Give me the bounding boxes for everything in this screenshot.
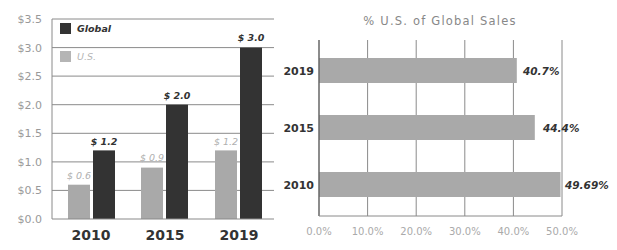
y-category: 2010	[283, 179, 314, 192]
x-tick: 40.0%	[498, 226, 530, 237]
bar-global-2015	[166, 105, 188, 219]
x-tick: 30.0%	[449, 226, 481, 237]
value-label-global-2019: $ 3.0	[238, 32, 265, 43]
x-tick: 50.0%	[546, 226, 578, 237]
x-category-labels: 2010 2015 2019	[72, 227, 259, 243]
legend-swatch-us	[60, 51, 71, 62]
y-tick-labels: $0.0 $0.5 $1.0 $1.5 $2.0 $2.5 $3.0 $3.5	[18, 13, 43, 226]
charts-canvas: $0.0 $0.5 $1.0 $1.5 $2.0 $2.5 $3.0 $3.5 …	[0, 0, 617, 250]
y-tick: $3.5	[18, 13, 43, 26]
x-category: 2010	[72, 227, 111, 243]
y-tick: $3.0	[18, 42, 43, 55]
x-tick: 20.0%	[400, 226, 432, 237]
value-label-us-2015: $ 0.9	[140, 152, 164, 163]
y-category: 2019	[283, 65, 314, 78]
value-label-2015: 44.4%	[542, 122, 579, 134]
bar-2019	[319, 58, 517, 83]
value-label-us-2019: $ 1.2	[214, 136, 238, 147]
bar-global-2019	[240, 48, 262, 219]
value-label-2010: 49.69%	[564, 179, 609, 191]
value-label-global-2015: $ 2.0	[164, 90, 191, 101]
value-label-global-2010: $ 1.2	[91, 136, 118, 147]
y-tick: $1.5	[18, 127, 43, 140]
x-tick-labels: 0.0% 10.0% 20.0% 30.0% 40.0% 50.0%	[306, 226, 578, 237]
value-label-us-2010: $ 0.6	[67, 170, 91, 181]
bar-2015	[319, 115, 535, 140]
y-tick: $1.0	[18, 156, 43, 169]
sales-bar-chart: $0.0 $0.5 $1.0 $1.5 $2.0 $2.5 $3.0 $3.5 …	[18, 13, 275, 243]
legend-label-us: U.S.	[77, 51, 96, 62]
y-tick: $0.0	[18, 213, 43, 226]
x-tick: 0.0%	[306, 226, 331, 237]
y-tick: $2.0	[18, 99, 43, 112]
bar-us-2010	[68, 185, 90, 219]
us-share-bar-chart: % U.S. of Global Sales 2019 2015 2010 40…	[283, 14, 608, 237]
bar-us-2015	[141, 168, 163, 219]
legend-label-global: Global	[77, 23, 112, 34]
legend: Global U.S.	[60, 23, 112, 62]
bars	[319, 58, 561, 197]
y-tick: $2.5	[18, 70, 43, 83]
legend-swatch-global	[60, 23, 71, 34]
bar-global-2010	[93, 150, 115, 219]
y-category-labels: 2019 2015 2010	[283, 65, 314, 192]
x-tick: 10.0%	[352, 226, 384, 237]
x-category: 2019	[220, 227, 259, 243]
bar-us-2019	[215, 150, 237, 219]
value-label-2019: 40.7%	[522, 65, 559, 77]
bar-2010	[319, 172, 561, 197]
y-tick: $0.5	[18, 184, 43, 197]
y-category: 2015	[283, 122, 314, 135]
x-category: 2015	[146, 227, 185, 243]
chart-title: % U.S. of Global Sales	[363, 14, 516, 28]
